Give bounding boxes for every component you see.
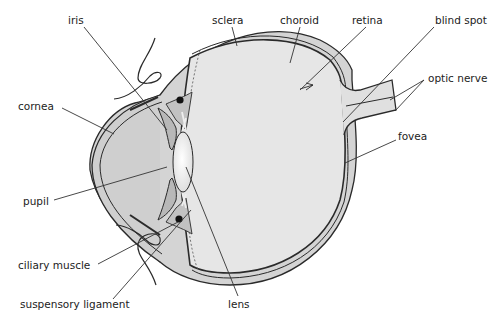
- ciliary-muscle-dot-lower: [175, 215, 182, 222]
- eye-diagram: iris sclera choroid retina blind spot op…: [0, 0, 493, 328]
- label-ciliary-muscle: ciliary muscle: [18, 259, 90, 271]
- ciliary-muscle-dot-upper: [176, 96, 183, 103]
- label-iris: iris: [68, 14, 84, 26]
- label-sclera: sclera: [212, 14, 243, 26]
- label-lens: lens: [228, 298, 250, 310]
- label-choroid: choroid: [280, 14, 319, 26]
- upper-eyelid: [114, 38, 161, 99]
- label-blind-spot: blind spot: [435, 14, 487, 26]
- label-fovea: fovea: [398, 130, 427, 142]
- label-retina: retina: [352, 14, 383, 26]
- eye-cross-section: [0, 0, 493, 328]
- leader-optic-nerve-1: [390, 80, 424, 100]
- leader-optic-nerve-2: [395, 80, 424, 111]
- lens-shape: [173, 132, 193, 192]
- label-suspensory-ligament: suspensory ligament: [20, 298, 130, 310]
- label-cornea: cornea: [18, 100, 54, 112]
- leader-cornea: [62, 108, 114, 134]
- label-optic-nerve: optic nerve: [428, 72, 487, 84]
- label-pupil: pupil: [23, 195, 49, 207]
